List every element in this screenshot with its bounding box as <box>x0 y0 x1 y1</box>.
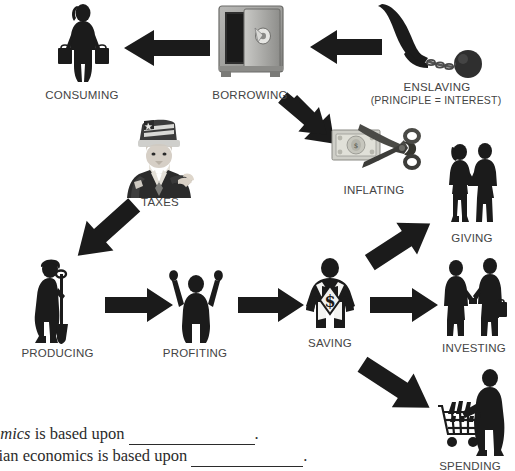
label-giving: GIVING <box>422 232 515 244</box>
arrow-producing-to-profiting <box>105 288 173 322</box>
safe-vault-icon <box>211 2 291 82</box>
question-2-suffix: . <box>303 446 307 465</box>
question-2-text: sian economics is based upon <box>0 446 191 465</box>
node-borrowing <box>211 2 291 82</box>
node-saving: $ <box>292 258 368 334</box>
node-enslaving <box>378 2 490 80</box>
ball-and-chain-icon <box>378 2 490 80</box>
label-taxes: TAXES <box>100 196 220 208</box>
question-1-italic-word: omics <box>0 424 31 443</box>
question-2-blank[interactable] <box>191 446 303 467</box>
question-1-text: is based upon <box>31 424 129 443</box>
node-inflating: $ <box>330 118 418 186</box>
couple-exchanging-gift-icon <box>440 140 506 232</box>
question-line-2: sian economics is based upon . <box>0 446 307 467</box>
label-profiting: PROFITING <box>145 347 245 359</box>
arrow-enslaving-to-borrowing <box>310 30 382 64</box>
label-enslaving-sub: (PRINCIPLE = INTEREST) <box>357 94 515 106</box>
man-arms-raised-icon <box>168 258 224 344</box>
node-profiting <box>168 258 224 344</box>
svg-text:$: $ <box>324 292 335 311</box>
node-giving <box>440 140 506 232</box>
label-spending: SPENDING <box>420 460 515 471</box>
node-investing <box>438 258 508 342</box>
label-inflating: INFLATING <box>324 184 424 196</box>
question-line-1: omics is based upon . <box>0 424 259 445</box>
label-saving: SAVING <box>280 337 380 349</box>
arrow-borrowing-to-consuming <box>124 30 210 66</box>
node-taxes <box>122 118 196 200</box>
man-shopping-cart-icon <box>432 368 514 458</box>
worker-with-shovel-icon <box>28 258 92 346</box>
node-spending <box>432 368 514 458</box>
label-enslaving: ENSLAVING <box>362 81 512 93</box>
question-1-blank[interactable] <box>129 424 255 445</box>
question-1-suffix: . <box>255 424 259 443</box>
woman-shopping-bags-icon <box>52 4 114 84</box>
node-consuming <box>52 4 114 84</box>
flow-diagram: CONSUMING <box>0 0 515 471</box>
svg-text:$: $ <box>354 142 358 150</box>
arrow-saving-to-investing <box>370 288 438 322</box>
two-men-handshake-icon <box>438 258 508 342</box>
node-producing <box>28 258 92 346</box>
label-borrowing: BORROWING <box>170 89 330 101</box>
uncle-sam-icon <box>122 118 196 200</box>
arrow-saving-to-spending <box>352 355 440 417</box>
label-producing: PRODUCING <box>5 347 110 359</box>
scissors-cutting-dollar-icon: $ <box>330 118 418 186</box>
label-investing: INVESTING <box>424 342 515 354</box>
superhero-dollar-chest-icon: $ <box>292 258 368 334</box>
label-consuming: CONSUMING <box>0 89 164 101</box>
